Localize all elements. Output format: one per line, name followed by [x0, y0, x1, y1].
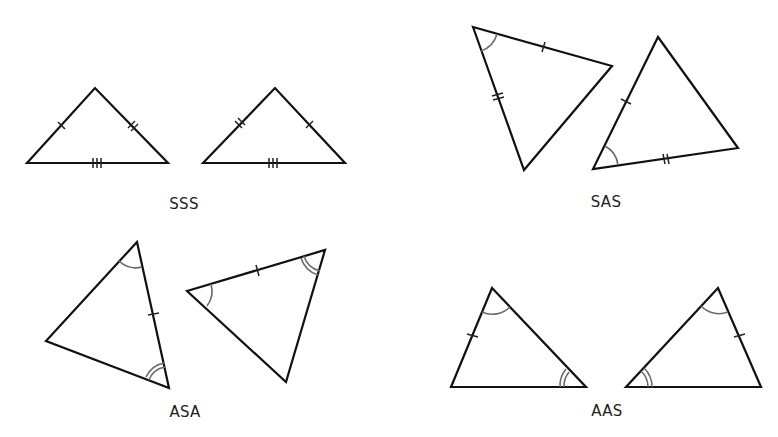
- single-tick-mark: [148, 313, 159, 315]
- sss-label: SSS: [169, 195, 198, 213]
- asa-triangle-2: [187, 250, 325, 382]
- double-angle-arc: [301, 256, 320, 275]
- sss-group: [27, 88, 345, 168]
- aas-triangle-2: [626, 288, 761, 387]
- asa-label: ASA: [169, 403, 200, 421]
- double-angle-arc: [560, 369, 569, 387]
- aas-group: [451, 288, 761, 387]
- double-angle-arc: [641, 368, 652, 387]
- angle-arc: [701, 306, 728, 314]
- angle-arc: [119, 261, 142, 268]
- congruence-diagram: [0, 0, 778, 437]
- asa-group: [46, 242, 325, 388]
- angle-arc: [482, 307, 510, 314]
- sas-label: SAS: [591, 193, 621, 211]
- aas-label: AAS: [591, 402, 622, 420]
- sas-group: [473, 27, 738, 170]
- double-angle-arc: [146, 363, 165, 380]
- sas-triangle-2: [593, 37, 738, 169]
- sss-triangle-2: [203, 88, 345, 163]
- sss-triangle-1: [27, 88, 168, 163]
- angle-arc: [481, 34, 497, 51]
- angle-arc: [605, 146, 618, 165]
- angle-arc: [207, 284, 212, 306]
- aas-triangle-1: [451, 288, 586, 387]
